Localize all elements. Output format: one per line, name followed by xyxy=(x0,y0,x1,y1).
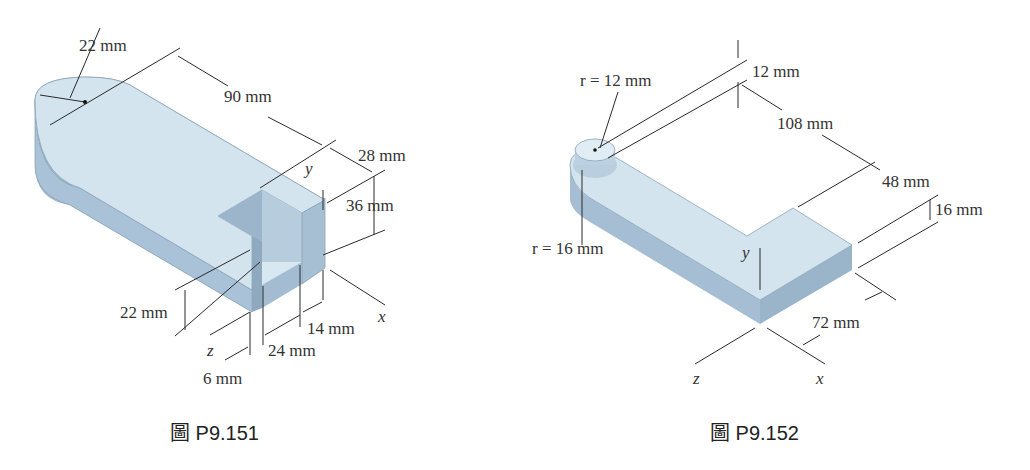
axis-z-label: z xyxy=(693,370,700,387)
dim-slot-bottom-label: 22 mm xyxy=(120,304,168,321)
dim-foot-label: 72 mm xyxy=(812,314,860,331)
dim-r-bottom-label: r = 16 mm xyxy=(532,240,603,257)
figure-caption: 圖 P9.151 xyxy=(170,417,259,446)
axis-z-label: z xyxy=(207,342,214,359)
dim-length-label: 90 mm xyxy=(224,88,272,105)
dim-height-label: 36 mm xyxy=(346,197,394,214)
dim-r-top-label: r = 12 mm xyxy=(580,72,651,89)
dim-width-label: 28 mm xyxy=(358,147,406,164)
dim-boss-height-label: 12 mm xyxy=(752,63,800,80)
figure-caption: 圖 P9.152 xyxy=(710,417,799,446)
axis-x-label: x xyxy=(816,370,824,387)
dim-slot-depth-label: 14 mm xyxy=(307,320,355,337)
dim-width-label: 48 mm xyxy=(882,173,930,190)
dim-thickness-label: 16 mm xyxy=(935,201,983,218)
dim-length-label: 108 mm xyxy=(777,115,833,132)
axis-x-label: x xyxy=(378,308,386,325)
axis-y-label: y xyxy=(305,160,313,177)
machine-part-drawing-1 xyxy=(0,0,520,470)
dim-radius-label: 22 mm xyxy=(79,37,127,54)
dim-slot-width-label: 24 mm xyxy=(268,342,316,359)
figure-p9-151: 22 mm 90 mm 28 mm 36 mm 22 mm 14 mm 24 m… xyxy=(0,0,520,470)
figure-p9-152: r = 12 mm 12 mm 108 mm 48 mm 16 mm r = 1… xyxy=(520,0,1030,470)
axis-y-label: y xyxy=(742,244,750,261)
dim-wall-label: 6 mm xyxy=(203,370,242,387)
